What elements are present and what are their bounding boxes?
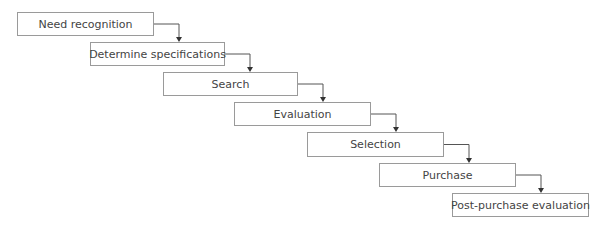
connector-line (371, 114, 396, 128)
step-post-purchase-evaluation: Post-purchase evaluation (452, 193, 589, 217)
step-purchase: Purchase (379, 163, 516, 187)
connector-line (225, 54, 250, 68)
step-determine-specifications: Determine specifications (90, 42, 225, 66)
connector-line (444, 145, 469, 160)
step-need-recognition: Need recognition (17, 12, 154, 36)
connector-line (154, 24, 179, 38)
step-selection: Selection (307, 132, 444, 157)
connector-line (298, 84, 323, 98)
connector-line (516, 175, 541, 189)
step-search: Search (163, 72, 298, 96)
step-evaluation: Evaluation (234, 102, 371, 126)
